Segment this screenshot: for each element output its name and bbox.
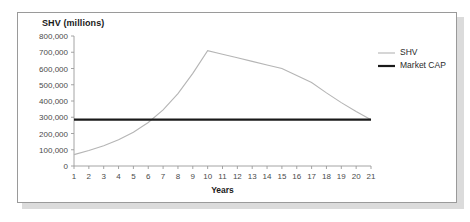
x-axis-tick-label: 9 [191, 172, 196, 181]
legend-label-market-cap: Market CAP [400, 60, 446, 70]
x-axis-tick-label: 17 [307, 172, 316, 181]
y-axis-tick-label: 800,000 [39, 32, 68, 41]
y-axis-tick-label: 100,000 [39, 146, 68, 155]
chart-panel: SHV (millions) 0100,000200,000300,000400… [17, 12, 457, 203]
y-axis-tick-label: 500,000 [39, 81, 68, 90]
x-axis-title: Years [211, 185, 234, 195]
x-axis-tick-label: 8 [176, 172, 181, 181]
y-axis-tick-label: 700,000 [39, 48, 68, 57]
x-axis-tick-label: 3 [101, 172, 106, 181]
x-axis-tick-label: 5 [131, 172, 136, 181]
x-axis-tick-label: 7 [161, 172, 166, 181]
x-axis-tick-label: 10 [203, 172, 212, 181]
figure-root: SHV (millions) 0100,000200,000300,000400… [0, 0, 470, 222]
x-axis-tick-label: 18 [322, 172, 331, 181]
legend-label-shv: SHV [400, 47, 418, 57]
x-axis-tick-label: 20 [352, 172, 361, 181]
x-axis-tick-label: 21 [367, 172, 376, 181]
x-axis-tick-label: 19 [337, 172, 346, 181]
y-axis-tick-label: 200,000 [39, 130, 68, 139]
series-line-shv [74, 51, 371, 155]
y-axis-tick-label: 300,000 [39, 113, 68, 122]
x-axis-tick-label: 11 [218, 172, 227, 181]
x-axis-tick-label: 4 [116, 172, 121, 181]
y-axis-tick-label: 400,000 [39, 97, 68, 106]
x-axis-tick-label: 16 [292, 172, 301, 181]
x-axis-tick-label: 2 [87, 172, 92, 181]
line-chart: 0100,000200,000300,000400,000500,000600,… [18, 13, 458, 204]
x-axis-tick-label: 6 [146, 172, 151, 181]
x-axis-tick-label: 13 [248, 172, 257, 181]
y-axis-tick-label: 600,000 [39, 65, 68, 74]
x-axis-tick-label: 12 [233, 172, 242, 181]
x-axis-tick-label: 1 [72, 172, 77, 181]
x-axis-tick-label: 15 [277, 172, 286, 181]
x-axis-tick-label: 14 [263, 172, 272, 181]
y-axis-tick-label: 0 [64, 162, 69, 171]
